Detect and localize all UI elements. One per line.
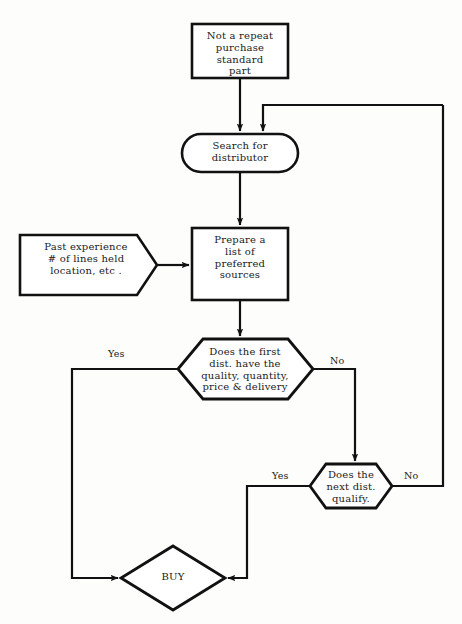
edge-next-yes-to-buy xyxy=(228,486,310,578)
edge-first-yes-to-buy xyxy=(72,369,178,578)
node-past-experience xyxy=(20,235,157,295)
edge-no-loop-to-search xyxy=(263,105,443,131)
flowchart-vector-layer xyxy=(0,0,462,624)
node-next-dist-decision xyxy=(310,464,392,508)
node-buy-diamond xyxy=(121,546,225,610)
node-prepare-box xyxy=(192,228,288,300)
node-search-stadium xyxy=(182,134,298,172)
flowchart-canvas: Not a repeat purchase standard part Sear… xyxy=(0,0,462,624)
node-first-dist-decision xyxy=(178,339,313,399)
edge-next-no-to-search-loop xyxy=(392,105,443,486)
node-start-box xyxy=(192,24,288,78)
edge-first-no-to-next-decision xyxy=(313,369,355,461)
